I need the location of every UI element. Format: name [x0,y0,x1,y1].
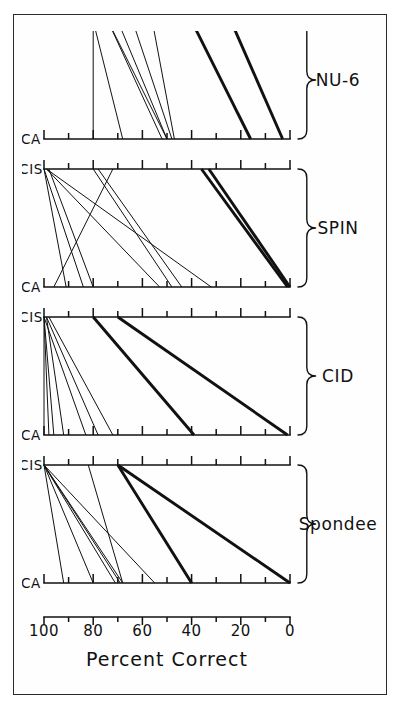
slope-line [209,169,290,287]
panel-cid: CACISCID [22,308,354,443]
slope-chart-svg: 020406080100Percent CorrectCACISSpondeeC… [22,31,378,679]
condition-label-cis: CIS [22,161,43,177]
y-axis-tick-label: 80 [83,622,103,640]
condition-label-ca: CA [22,427,41,443]
figure-stage: 020406080100Percent CorrectCACISSpondeeC… [22,31,378,679]
panel-nu-6: CACISNU-6 [22,31,360,147]
panel-brace [298,169,316,287]
panel-label: NU-6 [316,70,361,90]
panel-spondee: CACISSpondee [22,456,377,591]
panel-spin: CACISSPIN [22,160,359,295]
y-axis-tick-label: 40 [182,622,202,640]
y-axis-title: Percent Correct [86,648,248,670]
slope-line [118,465,192,583]
slope-line [44,465,93,583]
slope-line [118,465,290,583]
y-axis-tick-label: 100 [29,622,59,640]
condition-label-ca: CA [22,131,41,147]
slope-line [44,169,83,287]
slope-line [88,465,122,583]
panel-label: Spondee [299,514,378,534]
slope-line [231,31,283,139]
panel-brace [298,317,316,435]
condition-label-ca: CA [22,279,41,295]
slope-line [44,317,86,435]
slope-line [118,31,167,139]
slope-line [49,317,113,435]
condition-label-cis: CIS [22,309,43,325]
condition-label-ca: CA [22,575,41,591]
slope-line [44,465,123,583]
slope-line [44,317,49,435]
slope-line [201,169,287,287]
slope-chart: 020406080100Percent CorrectCACISSpondeeC… [22,31,378,679]
figure-page: 020406080100Percent CorrectCACISSpondeeC… [0,0,400,709]
condition-label-cis: CIS [22,457,43,473]
panel-label: SPIN [317,218,358,238]
slope-line [93,169,172,287]
panel-label: CID [322,366,354,386]
y-axis-tick-label: 0 [285,622,295,640]
y-axis-tick-label: 20 [231,622,251,640]
slope-line [46,317,98,435]
rotated-figure-wrapper: 020406080100Percent CorrectCACISSpondeeC… [0,0,400,709]
slope-line [133,31,172,139]
slope-line [98,169,182,287]
slope-line [93,31,123,139]
panel-brace [298,31,316,139]
y-axis-tick-label: 60 [132,622,152,640]
slope-line [152,31,174,139]
